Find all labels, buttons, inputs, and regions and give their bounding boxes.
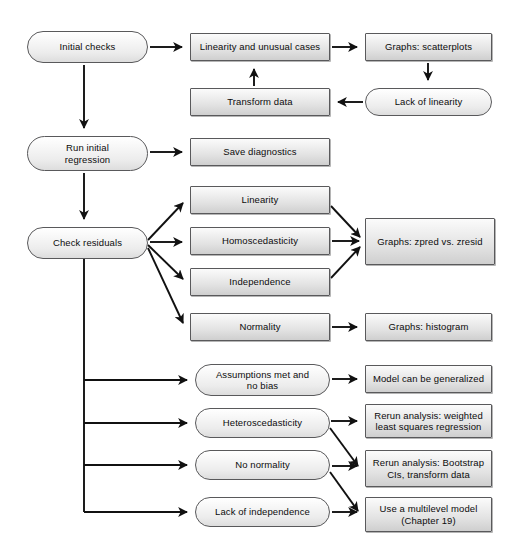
node-linearity[interactable]: Linearity: [190, 186, 330, 214]
flowchart-canvas: Initial checksLinearity and unusual case…: [0, 0, 517, 560]
node-label-rerun_bootstrap: Rerun analysis: BootstrapCIs, transform …: [369, 457, 488, 480]
node-normality[interactable]: Normality: [190, 313, 330, 341]
node-label-transform_data: Transform data: [223, 96, 296, 108]
node-label-run_initial_regression: Run initialregression: [61, 142, 114, 165]
node-rerun_bootstrap[interactable]: Rerun analysis: BootstrapCIs, transform …: [365, 450, 492, 487]
node-label-normality: Normality: [235, 321, 284, 333]
node-label-linearity_unusual: Linearity and unusual cases: [196, 41, 324, 53]
node-label-graphs_scatterplots: Graphs: scatterplots: [381, 41, 476, 53]
node-lack_of_linearity[interactable]: Lack of linearity: [365, 88, 492, 116]
node-no_normality[interactable]: No normality: [195, 450, 330, 480]
edge-check_residuals-to-linearity: [148, 203, 183, 240]
node-label-initial_checks: Initial checks: [56, 41, 120, 53]
node-label-graphs_zpred_zresid: Graphs: zpred vs. zresid: [373, 236, 486, 248]
node-assumptions_met[interactable]: Assumptions met andno bias: [195, 364, 330, 396]
node-independence[interactable]: Independence: [190, 268, 330, 296]
node-multilevel_model[interactable]: Use a multilevel model(Chapter 19): [365, 497, 492, 532]
node-label-no_normality: No normality: [231, 459, 294, 471]
edge-check_residuals-to-independence: [148, 245, 183, 279]
edge-no_normality-to-multilevel_model: [330, 472, 358, 511]
node-run_initial_regression[interactable]: Run initialregression: [27, 136, 148, 171]
node-label-check_residuals: Check residuals: [49, 237, 126, 249]
node-save_diagnostics[interactable]: Save diagnostics: [190, 138, 330, 166]
node-initial_checks[interactable]: Initial checks: [27, 31, 148, 63]
node-label-assumptions_met: Assumptions met andno bias: [212, 369, 313, 392]
node-label-lack_of_linearity: Lack of linearity: [391, 96, 467, 108]
node-label-heteroscedasticity: Heteroscedasticity: [219, 417, 306, 429]
edge-heteroscedasticity-to-rerun_bootstrap: [330, 428, 358, 466]
node-homoscedasticity[interactable]: Homoscedasticity: [190, 227, 330, 255]
node-transform_data[interactable]: Transform data: [190, 88, 330, 116]
node-label-linearity: Linearity: [238, 194, 283, 206]
edge-linearity-to-graphs_zpred_zresid: [331, 206, 360, 237]
node-label-model_generalized: Model can be generalized: [369, 373, 488, 385]
node-heteroscedasticity[interactable]: Heteroscedasticity: [195, 408, 330, 438]
edge-independence-to-graphs_zpred_zresid: [331, 247, 360, 278]
node-check_residuals[interactable]: Check residuals: [27, 227, 148, 259]
node-graphs_zpred_zresid[interactable]: Graphs: zpred vs. zresid: [365, 218, 495, 265]
node-label-multilevel_model: Use a multilevel model(Chapter 19): [376, 503, 482, 526]
node-label-lack_of_independence: Lack of independence: [211, 506, 314, 518]
node-label-save_diagnostics: Save diagnostics: [219, 146, 300, 158]
node-model_generalized[interactable]: Model can be generalized: [365, 365, 492, 393]
node-linearity_unusual[interactable]: Linearity and unusual cases: [190, 33, 330, 61]
node-rerun_wls[interactable]: Rerun analysis: weightedleast squares re…: [365, 404, 492, 438]
node-label-independence: Independence: [225, 276, 294, 288]
node-label-graphs_histogram: Graphs: histogram: [385, 321, 473, 333]
node-graphs_histogram[interactable]: Graphs: histogram: [365, 313, 492, 341]
node-lack_of_independence[interactable]: Lack of independence: [195, 497, 330, 527]
edge-check_residuals-to-normality: [148, 248, 183, 323]
node-label-rerun_wls: Rerun analysis: weightedleast squares re…: [370, 410, 487, 433]
node-graphs_scatterplots[interactable]: Graphs: scatterplots: [365, 33, 492, 61]
node-label-homoscedasticity: Homoscedasticity: [218, 235, 302, 247]
